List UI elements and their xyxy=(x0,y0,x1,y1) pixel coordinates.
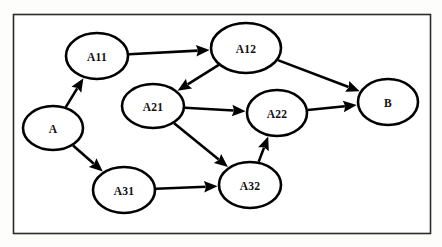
node-label: A11 xyxy=(87,51,107,63)
directed-graph-svg: AA11A12A21A22A31A32B xyxy=(0,0,442,247)
graph-node-a31[interactable]: A31 xyxy=(93,167,155,213)
node-label: A22 xyxy=(267,108,287,120)
node-label: A xyxy=(49,123,58,135)
graph-node-b[interactable]: B xyxy=(358,79,418,125)
graph-node-a32[interactable]: A32 xyxy=(219,162,281,208)
node-label: A31 xyxy=(114,185,134,197)
node-label: A21 xyxy=(143,101,163,113)
graph-node-a11[interactable]: A11 xyxy=(66,33,128,79)
graph-node-a12[interactable]: A12 xyxy=(211,23,281,73)
graph-node-a21[interactable]: A21 xyxy=(122,84,184,128)
graph-node-a[interactable]: A xyxy=(23,106,83,150)
diagram-canvas: AA11A12A21A22A31A32B xyxy=(0,0,442,247)
node-label: B xyxy=(384,97,392,109)
node-label: A12 xyxy=(236,43,256,55)
node-label: A32 xyxy=(240,180,260,192)
graph-node-a22[interactable]: A22 xyxy=(247,90,307,136)
